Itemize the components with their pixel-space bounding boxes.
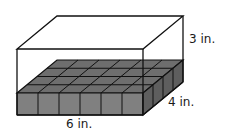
- depth-label: 4 in.: [168, 95, 194, 109]
- cube-layer: [17, 60, 183, 115]
- length-label: 6 in.: [66, 117, 92, 131]
- prism-diagram: 3 in. 4 in. 6 in.: [0, 0, 232, 136]
- prism-drawing: [0, 0, 232, 136]
- height-label: 3 in.: [189, 32, 215, 46]
